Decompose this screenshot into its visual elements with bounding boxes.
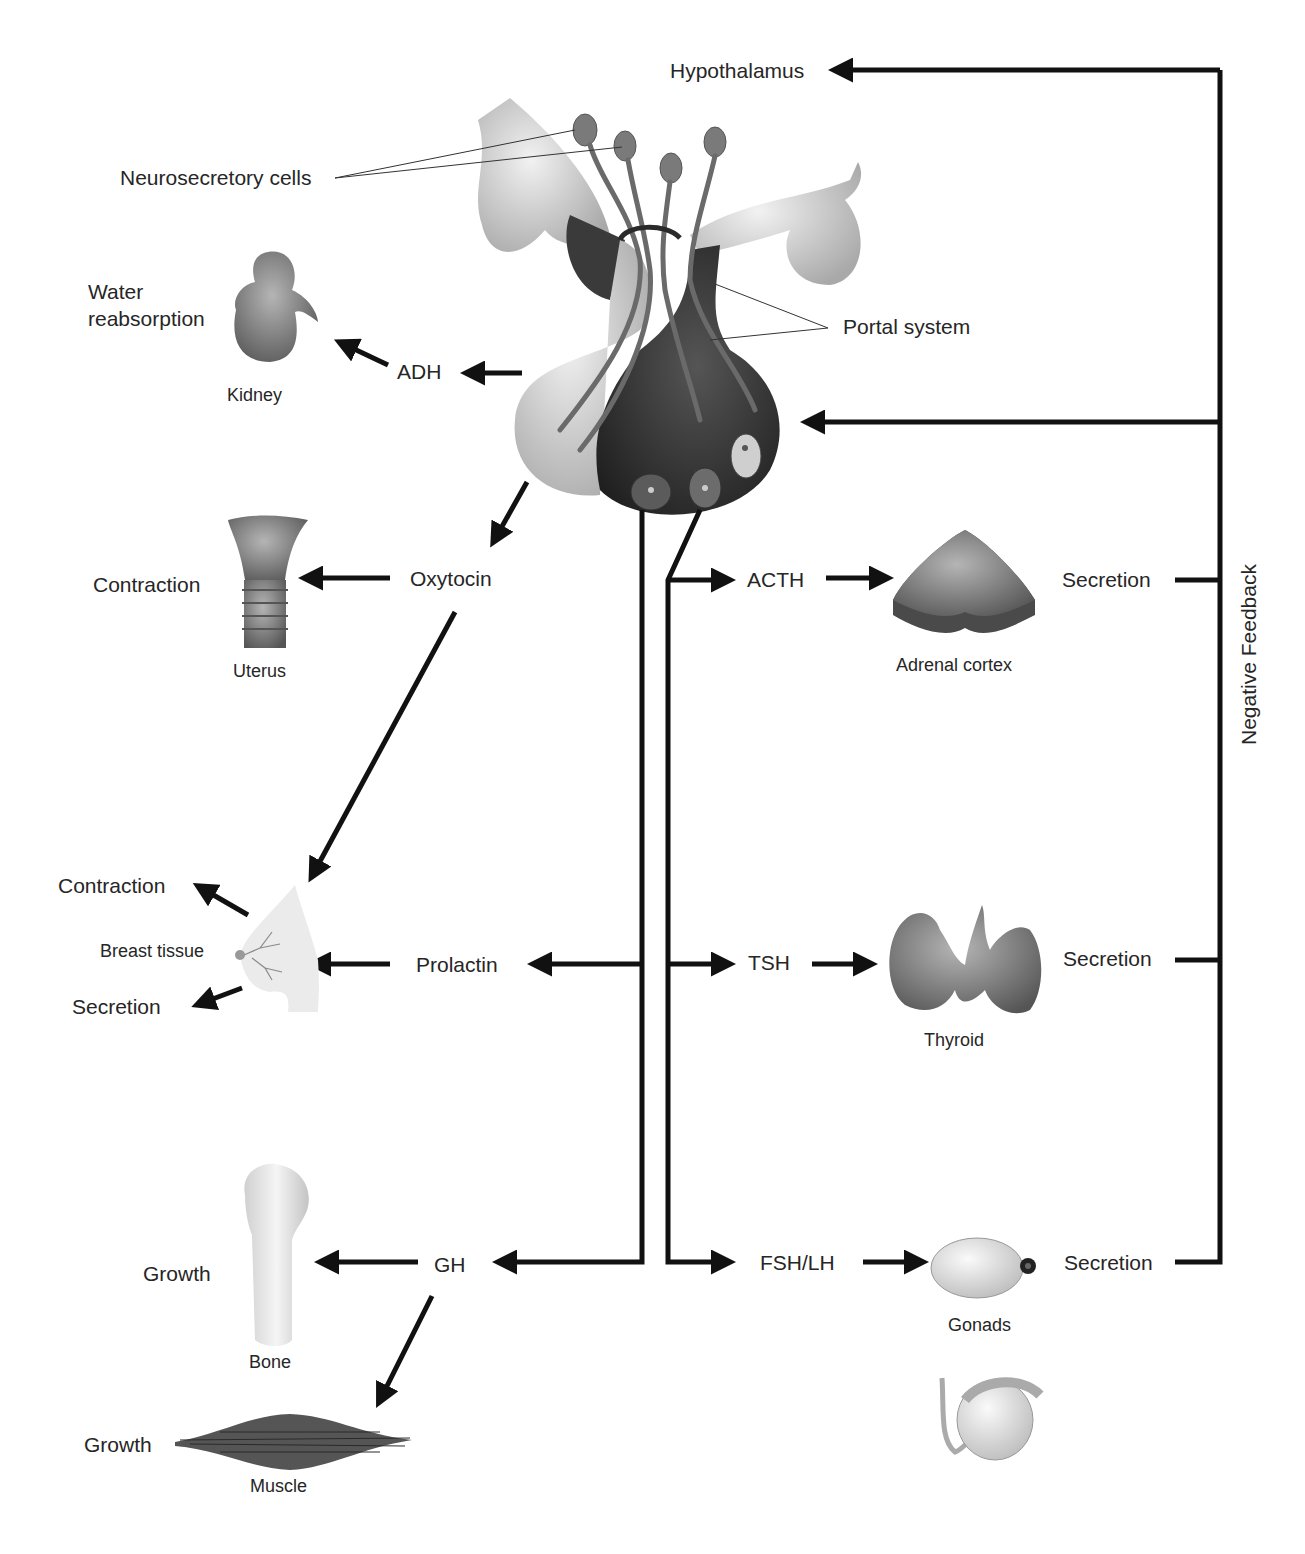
portal-loop: [620, 227, 680, 240]
acth-label: ACTH: [747, 569, 804, 590]
adh-label: ADH: [397, 361, 441, 382]
feedback-vertical-line: [1175, 70, 1220, 1262]
pituitary-gland-illustration: [478, 98, 861, 515]
hypothalamus-label: Hypothalamus: [670, 60, 804, 81]
gonads-label: Gonads: [948, 1316, 1011, 1334]
bone-illustration: [244, 1164, 308, 1346]
muscle-illustration: [175, 1414, 412, 1470]
adh-to-kidney-arrow: [352, 348, 388, 365]
fshlh-trunk-arrow: [668, 510, 716, 1262]
breast-contraction-arrow: [210, 893, 248, 915]
gh-trunk-arrow: [512, 510, 642, 1262]
kidney-effect-label-line1: Water: [88, 281, 143, 302]
ovary-illustration: [931, 1238, 1036, 1298]
gonads-secretion-label: Secretion: [1064, 1252, 1153, 1273]
testis-illustration: [942, 1378, 1040, 1460]
thyroid-secretion-label: Secretion: [1063, 948, 1152, 969]
tsh-label: TSH: [748, 952, 790, 973]
diagram-canvas: [0, 0, 1305, 1554]
breast-tissue-label: Breast tissue: [100, 942, 204, 960]
adrenal-secretion-label: Secretion: [1062, 569, 1151, 590]
adrenal-cortex-label: Adrenal cortex: [896, 656, 1012, 674]
uterus-effect-label: Contraction: [93, 574, 200, 595]
thyroid-label: Thyroid: [924, 1031, 984, 1049]
kidney-effect-label-line2: reabsorption: [88, 308, 205, 329]
prolactin-label: Prolactin: [416, 954, 498, 975]
kidney-illustration: [234, 252, 318, 362]
kidney-label: Kidney: [227, 386, 282, 404]
portal-system-label: Portal system: [843, 316, 970, 337]
uterus-label: Uterus: [233, 662, 286, 680]
breast-secretion-arrow: [210, 988, 242, 1000]
breast-illustration: [235, 885, 319, 1012]
negative-feedback-label: Negative Feedback: [1238, 564, 1259, 745]
neurosecretory-cell-bodies: [573, 114, 726, 183]
gh-label: GH: [434, 1254, 466, 1275]
uterus-illustration: [228, 516, 308, 649]
breast-secretion-label: Secretion: [72, 996, 161, 1017]
thyroid-illustration: [889, 905, 1041, 1013]
adrenal-cortex-illustration: [893, 530, 1035, 633]
neurosecretory-cells-label: Neurosecretory cells: [120, 167, 311, 188]
gh-to-muscle-arrow: [385, 1296, 432, 1390]
muscle-label: Muscle: [250, 1477, 307, 1495]
oxytocin-to-breast-arrow: [318, 612, 455, 865]
muscle-effect-label: Growth: [84, 1434, 152, 1455]
bone-effect-label: Growth: [143, 1263, 211, 1284]
breast-contraction-label: Contraction: [58, 875, 165, 896]
bone-label: Bone: [249, 1353, 291, 1371]
fsh-lh-label: FSH/LH: [760, 1252, 835, 1273]
pituitary-to-oxytocin-arrow: [500, 482, 527, 530]
oxytocin-label: Oxytocin: [410, 568, 492, 589]
